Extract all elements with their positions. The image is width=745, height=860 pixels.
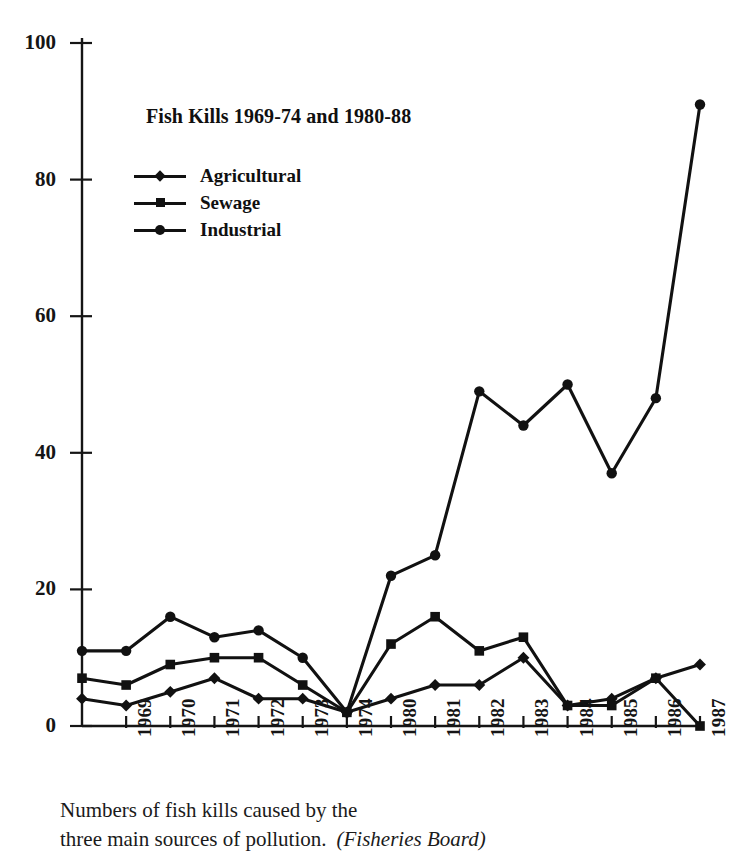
data-point-industrial-1985[interactable] <box>607 468 617 478</box>
fish-kills-chart-figure: 020406080100 196919701971197219731974198… <box>0 0 745 860</box>
data-point-agricultural-1969[interactable] <box>120 700 132 712</box>
data-point-sewage-1982[interactable] <box>474 646 484 656</box>
data-point-sewage-1985[interactable] <box>607 701 617 711</box>
data-point-sewage-1970[interactable] <box>165 660 175 670</box>
data-point-sewage-1969[interactable] <box>121 680 131 690</box>
y-axis-tick-label: 100 <box>2 32 56 53</box>
data-point-sewage-1981[interactable] <box>430 612 440 622</box>
data-point-agricultural-1981[interactable] <box>429 679 441 691</box>
data-point-industrial-1981[interactable] <box>430 550 440 560</box>
data-point-agricultural-1973[interactable] <box>297 693 309 705</box>
legend-item-industrial[interactable]: Industrial <box>134 216 301 243</box>
x-axis-tick-label: 1981 <box>443 698 465 737</box>
x-axis-tick-label: 1983 <box>531 698 553 737</box>
square-marker-icon <box>134 194 186 212</box>
data-point-sewage-1971[interactable] <box>210 653 220 663</box>
x-axis-tick-label: 1974 <box>355 698 377 737</box>
legend-label-sewage: Sewage <box>186 192 260 214</box>
data-point-industrial-1972[interactable] <box>253 625 263 635</box>
x-axis-tick-label: 1982 <box>487 698 509 737</box>
figure-caption: Numbers of fish kills caused by the thre… <box>60 796 700 854</box>
x-axis-tick-label: 1972 <box>267 698 289 737</box>
x-axis-tick-label: 1985 <box>620 698 642 737</box>
circle-marker-icon <box>134 221 186 239</box>
caption-source: (Fisheries Board) <box>327 827 486 851</box>
data-point-agricultural-start[interactable] <box>76 693 88 705</box>
data-point-sewage-1986[interactable] <box>651 673 661 683</box>
x-axis-tick-label: 1987 <box>708 698 730 737</box>
data-point-sewage-1984[interactable] <box>563 701 573 711</box>
x-axis-tick-label: 1980 <box>399 698 421 737</box>
y-axis-tick-label: 20 <box>2 578 56 599</box>
y-axis-tick-label: 40 <box>2 442 56 463</box>
x-axis-tick-label: 1970 <box>178 698 200 737</box>
data-point-industrial-1973[interactable] <box>298 653 308 663</box>
data-point-agricultural-1987[interactable] <box>694 659 706 671</box>
data-point-agricultural-1970[interactable] <box>164 686 176 698</box>
x-axis-tick-label: 1969 <box>134 698 156 737</box>
legend-label-industrial: Industrial <box>186 219 281 241</box>
data-point-industrial-1986[interactable] <box>651 393 661 403</box>
data-point-industrial-1983[interactable] <box>518 420 528 430</box>
data-point-industrial-1987[interactable] <box>695 99 705 109</box>
data-point-sewage-1983[interactable] <box>519 632 529 642</box>
data-point-sewage-1987[interactable] <box>695 721 705 731</box>
caption-line-2: three main sources of pollution. <box>60 827 327 851</box>
data-point-agricultural-1972[interactable] <box>253 693 265 705</box>
data-point-industrial-1982[interactable] <box>474 386 484 396</box>
legend-label-agricultural: Agricultural <box>186 165 301 187</box>
x-axis-tick-label: 1986 <box>664 698 686 737</box>
data-point-sewage-1972[interactable] <box>254 653 264 663</box>
x-axis-tick-label: 1973 <box>311 698 333 737</box>
data-point-industrial-1970[interactable] <box>165 612 175 622</box>
data-point-agricultural-1980[interactable] <box>385 693 397 705</box>
legend-item-sewage[interactable]: Sewage <box>134 189 301 216</box>
legend-item-agricultural[interactable]: Agricultural <box>134 162 301 189</box>
data-point-sewage-1980[interactable] <box>386 639 396 649</box>
x-axis-tick-label: 1971 <box>222 698 244 737</box>
caption-line-1: Numbers of fish kills caused by the <box>60 798 357 822</box>
data-point-sewage-1973[interactable] <box>298 680 308 690</box>
data-point-industrial-1969[interactable] <box>121 646 131 656</box>
chart-title: Fish Kills 1969-74 and 1980-88 <box>146 105 411 128</box>
data-point-industrial-1980[interactable] <box>386 571 396 581</box>
data-point-industrial-start[interactable] <box>77 646 87 656</box>
y-axis-tick-label: 60 <box>2 305 56 326</box>
y-axis-tick-label: 0 <box>2 715 56 736</box>
x-axis-tick-label: 1984 <box>576 698 598 737</box>
data-point-industrial-1984[interactable] <box>562 379 572 389</box>
y-axis-tick-label: 80 <box>2 169 56 190</box>
data-point-agricultural-1971[interactable] <box>208 672 220 684</box>
data-point-industrial-1974[interactable] <box>342 707 352 717</box>
chart-legend: Agricultural Sewage Industrial <box>134 162 301 243</box>
diamond-marker-icon <box>134 167 186 185</box>
data-point-sewage-start[interactable] <box>77 673 87 683</box>
data-point-industrial-1971[interactable] <box>209 632 219 642</box>
